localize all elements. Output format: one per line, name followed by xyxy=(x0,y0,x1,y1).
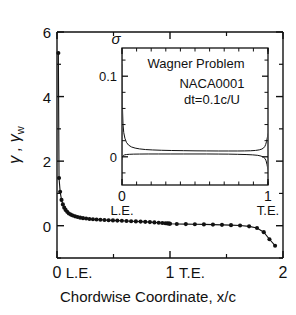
data-point xyxy=(59,198,63,202)
inset-x-tick-secondary-0: L.E. xyxy=(110,203,133,218)
data-point xyxy=(238,224,242,228)
data-point xyxy=(168,222,172,226)
data-point xyxy=(115,219,119,223)
inset-timestep: dt=0.1c/U xyxy=(184,92,240,107)
main-y-tick-label-2: 4 xyxy=(43,89,51,106)
data-point xyxy=(91,217,95,221)
data-point xyxy=(184,222,188,226)
data-point xyxy=(87,217,91,221)
data-point xyxy=(111,218,115,222)
data-point xyxy=(229,223,233,227)
main-ylabel: γ , γw xyxy=(6,126,26,163)
data-point xyxy=(273,244,277,248)
data-point xyxy=(124,219,128,223)
main-y-tick-label-3: 6 xyxy=(43,24,51,41)
inset-x-tick-label-1: 1 xyxy=(264,188,272,204)
data-point xyxy=(193,222,197,226)
data-point xyxy=(262,230,266,234)
data-point xyxy=(157,221,161,225)
inset-y-tick-label-0: 0 xyxy=(110,150,117,165)
data-point xyxy=(152,220,156,224)
data-point xyxy=(120,219,124,223)
data-point xyxy=(56,51,60,55)
data-point xyxy=(58,190,62,194)
main-x-tick-label-0: 0 xyxy=(53,264,62,281)
data-point xyxy=(202,222,206,226)
data-point xyxy=(143,220,147,224)
data-point xyxy=(247,224,251,228)
data-point xyxy=(220,223,224,227)
main-x-tick-label-1: 1 xyxy=(166,264,175,281)
data-point xyxy=(148,220,152,224)
data-point xyxy=(95,217,99,221)
chart-canvas: γ , γw02460L.E.1T.E.2Chordwise Coordinat… xyxy=(0,0,296,315)
main-xlabel: Chordwise Coordinate, x/c xyxy=(60,288,236,305)
data-point xyxy=(98,218,102,222)
data-point xyxy=(175,222,179,226)
data-point xyxy=(267,237,271,241)
figure-container: γ , γw02460L.E.1T.E.2Chordwise Coordinat… xyxy=(0,0,296,315)
main-x-tick-secondary-1: T.E. xyxy=(179,264,205,281)
data-point xyxy=(211,223,215,227)
inset-ylabel: σ xyxy=(111,30,121,47)
main-y-tick-label-0: 0 xyxy=(43,218,51,235)
data-point xyxy=(107,218,111,222)
inset-x-tick-label-0: 0 xyxy=(118,188,126,204)
data-point xyxy=(57,176,61,180)
data-point xyxy=(102,218,106,222)
inset-airfoil: NACA0001 xyxy=(179,76,244,91)
data-point xyxy=(139,220,143,224)
data-point xyxy=(129,219,133,223)
inset-x-tick-secondary-1: T.E. xyxy=(257,203,279,218)
main-x-tick-secondary-0: L.E. xyxy=(66,264,93,281)
data-point xyxy=(134,219,138,223)
inset-y-tick-label-1: 0.1 xyxy=(99,69,117,84)
main-x-tick-label-2: 2 xyxy=(279,264,288,281)
data-point xyxy=(255,226,259,230)
main-y-tick-label-1: 2 xyxy=(43,153,51,170)
inset-title: Wagner Problem xyxy=(147,56,244,71)
